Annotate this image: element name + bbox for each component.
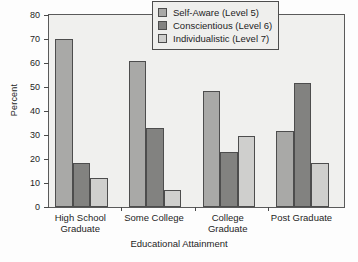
legend-label: Conscientious (Level 6): [173, 20, 272, 31]
bar: [203, 91, 221, 207]
bar: [276, 131, 294, 207]
y-axis-tick-label: 70: [8, 35, 40, 44]
legend-item: Conscientious (Level 6): [158, 19, 272, 32]
legend-item: Self-Aware (Level 5): [158, 6, 272, 19]
x-axis-group-separator: [121, 207, 122, 211]
chart-legend: Self-Aware (Level 5)Conscientious (Level…: [152, 1, 279, 50]
y-axis-tick-label: 30: [8, 131, 40, 140]
y-axis-tick-mark: [44, 15, 49, 16]
y-axis-tick-mark: [44, 207, 49, 208]
x-axis-group-separator: [268, 207, 269, 211]
x-axis-title: Educational Attainment: [0, 238, 358, 249]
y-axis-tick-mark: [44, 87, 49, 88]
y-axis-tick-label: 80: [8, 11, 40, 20]
legend-label: Self-Aware (Level 5): [173, 7, 259, 18]
y-axis-tick-mark: [44, 39, 49, 40]
bar: [90, 178, 108, 207]
bar: [311, 163, 329, 207]
x-axis-tick-label-line: Post Graduate: [257, 212, 347, 223]
y-axis-tick-mark: [44, 183, 49, 184]
x-axis-tick-label: Post Graduate: [257, 212, 347, 223]
x-axis-tick-label-line: Graduate: [35, 223, 125, 234]
bar: [164, 190, 182, 207]
legend-label: Individualistic (Level 7): [173, 33, 269, 44]
bar: [220, 152, 238, 207]
bar: [55, 39, 73, 207]
y-axis-tick-label: 10: [8, 179, 40, 188]
y-axis-title: Percent: [9, 70, 19, 130]
legend-swatch-icon: [158, 8, 167, 17]
y-axis-tick-mark: [44, 63, 49, 64]
x-axis-group-separator: [195, 207, 196, 211]
y-axis-tick-label: 40: [8, 107, 40, 116]
y-axis-tick-mark: [44, 111, 49, 112]
bar: [294, 83, 312, 207]
bar: [238, 136, 256, 207]
legend-swatch-icon: [158, 34, 167, 43]
bar: [146, 128, 164, 207]
x-axis-tick-label-line: Graduate: [183, 223, 273, 234]
bar: [73, 163, 91, 207]
bar-chart-figure: Percent 01020304050607080 Self-Aware (Le…: [0, 0, 358, 262]
legend-swatch-icon: [158, 21, 167, 30]
y-axis-tick-label: 60: [8, 59, 40, 68]
legend-item: Individualistic (Level 7): [158, 32, 272, 45]
y-axis-tick-label: 0: [8, 203, 40, 212]
y-axis-tick-mark: [44, 159, 49, 160]
bar: [129, 61, 147, 207]
y-axis-tick-label: 50: [8, 83, 40, 92]
y-axis-tick-mark: [44, 135, 49, 136]
y-axis-tick-label: 20: [8, 155, 40, 164]
